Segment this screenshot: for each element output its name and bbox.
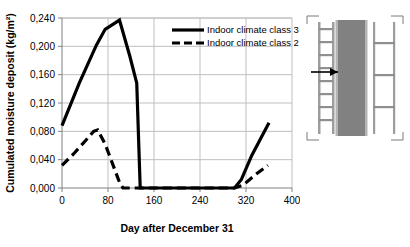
- y-tick-label: 0,080: [30, 126, 55, 137]
- y-tick-label: 0,240: [30, 13, 55, 24]
- y-tick-label: 0,200: [30, 41, 55, 52]
- y-axis-tick-labels: 0,0000,0400,0800,1200,1600,2000,240: [30, 13, 55, 194]
- wall-core-left-edge: [336, 20, 339, 136]
- x-tick-label: 160: [146, 195, 163, 206]
- legend-label-2: Indoor climate class 2: [207, 37, 299, 48]
- y-tick-label: 0,120: [30, 98, 55, 109]
- y-tick-label: 0,000: [30, 183, 55, 194]
- interior-frame-inner-line: [373, 22, 375, 134]
- legend-label-1: Indoor climate class 3: [207, 24, 299, 35]
- figure-root: 0,0000,0400,0800,1200,1600,2000,240 0801…: [0, 0, 410, 247]
- wall-svg: [305, 14, 405, 142]
- x-tick-label: 0: [59, 195, 65, 206]
- wall-core-right-edge: [365, 20, 368, 136]
- wall-core-layer: [338, 20, 365, 136]
- chart-svg: 0,0000,0400,0800,1200,1600,2000,240 0801…: [0, 0, 300, 247]
- x-tick-label: 240: [192, 195, 209, 206]
- x-tick-label: 80: [102, 195, 114, 206]
- y-axis-title: Cumulated moisture deposit (kg/m²): [4, 13, 16, 193]
- interior-frame-outer-line: [393, 22, 395, 134]
- y-axis-ticks: [58, 18, 62, 188]
- y-tick-label: 0,160: [30, 69, 55, 80]
- moisture-deposit-chart: 0,0000,0400,0800,1200,1600,2000,240 0801…: [0, 0, 300, 247]
- exterior-cladding-outer-line: [318, 22, 321, 134]
- x-tick-label: 320: [238, 195, 255, 206]
- x-axis-title: Day after December 31: [120, 222, 233, 234]
- y-tick-label: 0,040: [30, 154, 55, 165]
- wall-cross-section-diagram: [305, 14, 405, 142]
- x-axis-tick-labels: 080160240320400: [59, 195, 300, 206]
- x-tick-label: 400: [284, 195, 300, 206]
- exterior-cladding-inner-line: [332, 22, 335, 134]
